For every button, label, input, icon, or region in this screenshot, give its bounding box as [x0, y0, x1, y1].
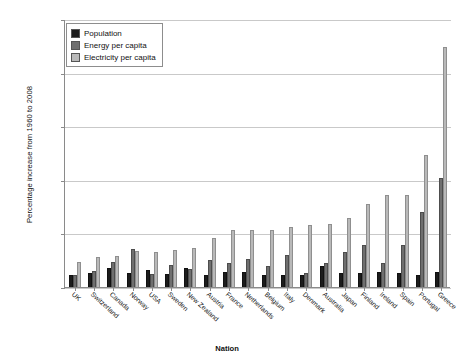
bar-group [316, 19, 335, 287]
legend-label-electricity: Electricity per capita [84, 53, 156, 62]
bar-group [277, 19, 296, 287]
x-label-cell: New Zealand [180, 290, 199, 346]
electricity-swatch [71, 53, 80, 62]
bar [173, 250, 177, 287]
bar-group [181, 19, 200, 287]
bar [154, 252, 158, 287]
x-label-cell: USA [141, 290, 160, 346]
bar [443, 47, 447, 287]
legend-item-energy: Energy per capita [71, 39, 156, 51]
x-label-cell: Portugal [411, 290, 430, 346]
x-label-cell: Australia [315, 290, 334, 346]
x-label-cell: Spain [392, 290, 411, 346]
bar [250, 230, 254, 287]
legend-item-electricity: Electricity per capita [71, 51, 156, 63]
bar-group [335, 19, 354, 287]
bar [96, 257, 100, 287]
bar-group [219, 19, 238, 287]
x-label-cell: Ireland [373, 290, 392, 346]
x-label-cell: Belgium [257, 290, 276, 346]
bar [405, 195, 409, 287]
population-swatch [71, 29, 80, 38]
x-label-cell: Denmark [296, 290, 315, 346]
x-label-cell: France [218, 290, 237, 346]
bar [135, 251, 139, 287]
bar-group [393, 19, 412, 287]
bar [212, 238, 216, 287]
energy-swatch [71, 41, 80, 50]
x-label-cell: Italy [276, 290, 295, 346]
y-tick-mark [61, 288, 65, 289]
bar-group [161, 19, 180, 287]
bar [385, 195, 389, 287]
bar [115, 256, 119, 287]
y-axis-title: Percentage increase from 1960 to 2008 [25, 40, 34, 270]
bar-group [297, 19, 316, 287]
legend-label-population: Population [84, 29, 122, 38]
bar [77, 262, 81, 287]
bar-group [412, 19, 431, 287]
x-label-cell: UK [64, 290, 83, 346]
bar [270, 230, 274, 287]
chart-legend: Population Energy per capita Electricity… [66, 23, 163, 67]
x-label-cell: Finland [353, 290, 372, 346]
legend-item-population: Population [71, 27, 156, 39]
x-tick-label: Italy [283, 291, 297, 305]
x-label-cell: Sweden [160, 290, 179, 346]
x-label-cell: Greece [431, 290, 450, 346]
bar [424, 155, 428, 287]
bar [192, 248, 196, 287]
x-label-cell: Canada [103, 290, 122, 346]
x-tick-label: Greece [437, 291, 458, 311]
bar [366, 204, 370, 287]
x-tick-label: UK [70, 291, 82, 303]
bar-group [258, 19, 277, 287]
x-label-cell: Japan [334, 290, 353, 346]
x-axis-title: Nation [0, 344, 454, 353]
bar-group [239, 19, 258, 287]
legend-label-energy: Energy per capita [84, 41, 147, 50]
x-label-cell: Austria [199, 290, 218, 346]
bar-group [354, 19, 373, 287]
x-label-cell: Netherlands [238, 290, 257, 346]
x-label-cell: Switzerland [83, 290, 102, 346]
bar [289, 227, 293, 287]
bar-group [432, 19, 451, 287]
bar [347, 218, 351, 287]
bar [328, 224, 332, 287]
bar [231, 230, 235, 287]
x-label-cell: Norway [122, 290, 141, 346]
bar-group [374, 19, 393, 287]
gridline [65, 288, 451, 289]
x-axis-tick-labels: UKSwitzerlandCanadaNorwayUSASwedenNew Ze… [64, 290, 450, 346]
bar-group [200, 19, 219, 287]
bar [308, 225, 312, 287]
